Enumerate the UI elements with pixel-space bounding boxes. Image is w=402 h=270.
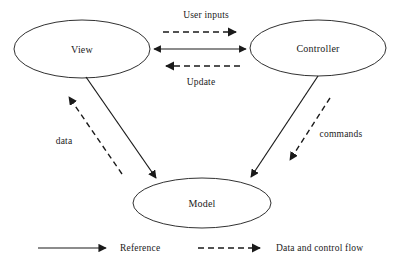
edge-view-model-reference-arrow xyxy=(86,77,156,178)
node-label-controller: Controller xyxy=(296,43,339,54)
legend-label-reference: Reference xyxy=(120,243,160,253)
mvc-diagram-canvas: View Controller Model User inputs Update… xyxy=(0,0,402,270)
edge-label-user-inputs: User inputs xyxy=(183,10,229,20)
edge-label-data: data xyxy=(56,136,73,146)
edge-controller-model-reference-arrow xyxy=(251,76,318,177)
edge-label-update: Update xyxy=(187,77,216,87)
node-label-model: Model xyxy=(188,198,215,209)
edge-data-arrow xyxy=(69,97,122,174)
edge-label-commands: commands xyxy=(320,129,363,139)
legend-label-data-and-control-flow: Data and control flow xyxy=(276,243,363,253)
node-label-view: View xyxy=(71,44,93,55)
